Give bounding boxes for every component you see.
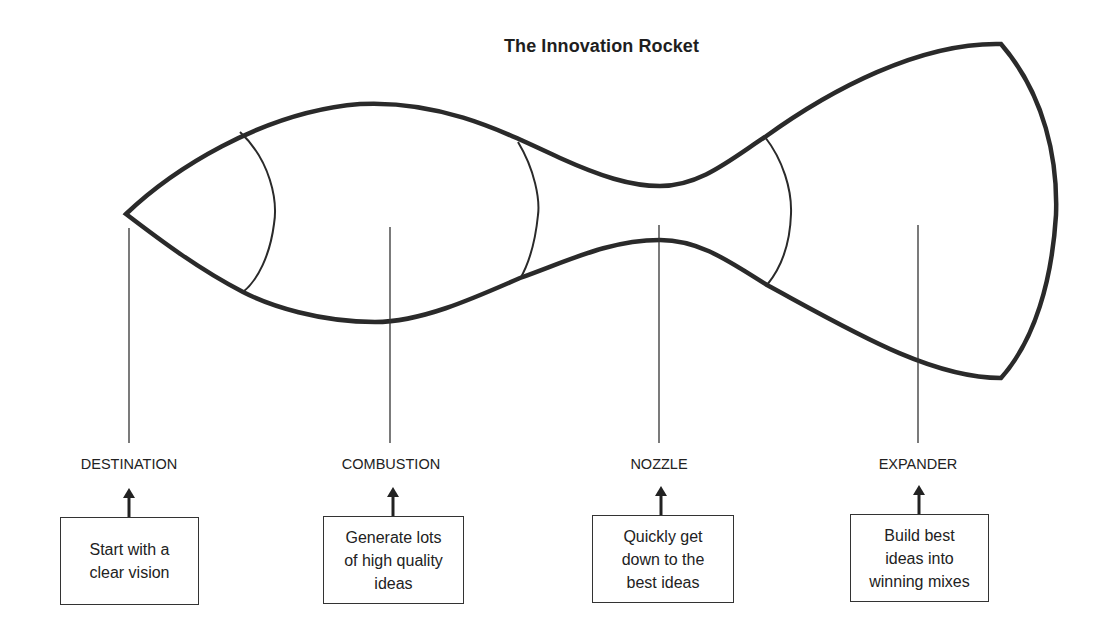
nozzle-up-arrow-icon — [655, 486, 667, 515]
description-box-combustion: Generate lots of high quality ideas — [323, 516, 464, 604]
description-text-combustion: Generate lots of high quality ideas — [344, 526, 443, 595]
stage-label-combustion: COMBUSTION — [291, 456, 491, 472]
combustion-up-arrow-icon — [387, 487, 399, 516]
description-box-expander: Build best ideas into winning mixes — [850, 514, 989, 602]
description-text-nozzle: Quickly get down to the best ideas — [622, 525, 705, 594]
rocket-outline — [126, 44, 1056, 378]
combustion-divider-arc — [518, 142, 538, 279]
description-text-destination: Start with a clear vision — [89, 538, 169, 584]
expander-up-arrow-icon — [913, 485, 925, 514]
description-box-destination: Start with a clear vision — [60, 517, 199, 605]
expander-divider-arc — [765, 137, 791, 285]
stage-label-nozzle: NOZZLE — [559, 456, 759, 472]
destination-up-arrow-icon — [123, 488, 135, 517]
stage-label-destination: DESTINATION — [29, 456, 229, 472]
description-box-nozzle: Quickly get down to the best ideas — [592, 515, 734, 603]
description-text-expander: Build best ideas into winning mixes — [869, 524, 969, 593]
stage-label-expander: EXPANDER — [818, 456, 1018, 472]
destination-divider-arc — [240, 132, 275, 292]
